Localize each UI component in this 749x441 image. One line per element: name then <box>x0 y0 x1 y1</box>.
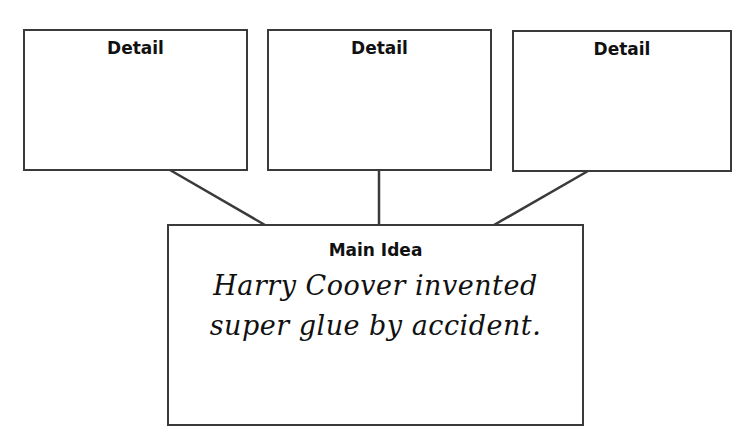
main-idea-box: Main Idea Harry Coover invented super gl… <box>167 224 584 426</box>
main-idea-line-1: Harry Coover invented <box>169 266 582 306</box>
main-idea-line-2: super glue by accident. <box>169 306 582 346</box>
detail-box-3: Detail <box>512 30 732 172</box>
main-idea-heading: Main Idea <box>169 240 582 260</box>
connector-left <box>170 170 265 225</box>
detail-heading: Detail <box>25 38 246 58</box>
detail-heading: Detail <box>514 39 730 59</box>
detail-box-1: Detail <box>23 29 248 171</box>
connector-right <box>494 171 588 225</box>
detail-box-2: Detail <box>267 29 492 171</box>
detail-heading: Detail <box>269 38 490 58</box>
main-idea-text: Harry Coover invented super glue by acci… <box>169 266 582 346</box>
